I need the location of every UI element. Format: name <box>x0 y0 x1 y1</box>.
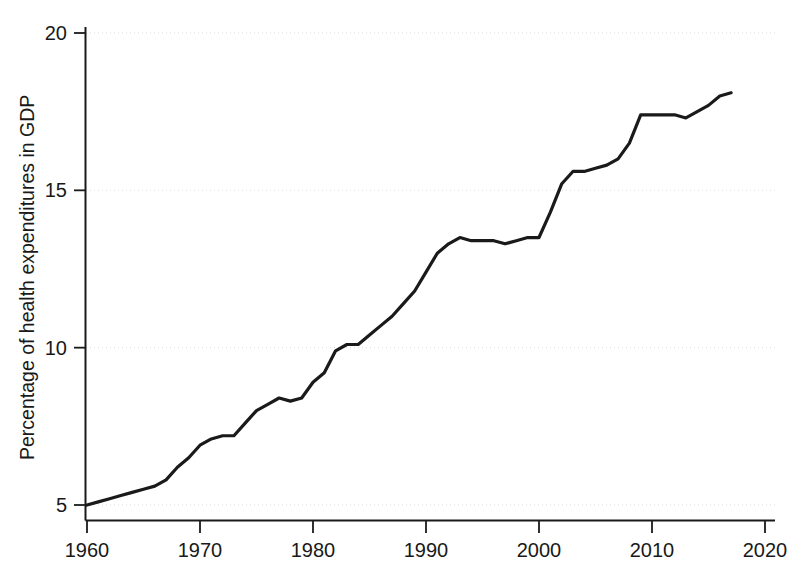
x-tick-label: 1970 <box>178 539 223 561</box>
x-tick-label: 1980 <box>291 539 336 561</box>
x-tick-label: 1960 <box>65 539 110 561</box>
y-tick-label: 20 <box>45 22 67 44</box>
y-tick-label: 10 <box>45 337 67 359</box>
y-tick-label: 5 <box>56 494 67 516</box>
x-tick-label: 2000 <box>517 539 562 561</box>
chart-background <box>0 0 794 573</box>
y-axis-title: Percentage of health expenditures in GDP <box>16 95 38 460</box>
x-tick-label: 2020 <box>743 539 788 561</box>
chart-container: 5101520 1960197019801990200020102020 Per… <box>0 0 794 573</box>
line-chart: 5101520 1960197019801990200020102020 Per… <box>0 0 794 573</box>
x-tick-label: 1990 <box>404 539 449 561</box>
y-tick-label: 15 <box>45 179 67 201</box>
x-tick-label: 2010 <box>630 539 675 561</box>
